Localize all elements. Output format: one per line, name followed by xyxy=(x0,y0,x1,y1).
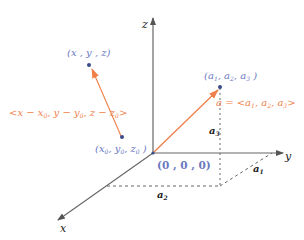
z-axis-label: z xyxy=(141,18,148,31)
a1-projection-line xyxy=(220,153,272,186)
point-general xyxy=(87,63,91,67)
displacement-vector-arrow xyxy=(92,69,121,136)
vector-diagram: z y x (0 , 0 , 0) (x , y , z) (x0, y0, z… xyxy=(0,0,304,240)
origin-point xyxy=(151,151,154,154)
displacement-vector-label: <x − x0, y − y0, z − z0> xyxy=(9,107,127,119)
x-axis-label: x xyxy=(60,222,67,235)
a1-component-label: a1 xyxy=(253,163,264,175)
vector-tip-label: (a1, a2, a3 ) xyxy=(204,70,257,82)
a3-component-label: a3 xyxy=(209,125,220,137)
initial-point-label: (x0, y0, z0 ) xyxy=(95,143,147,155)
a2-component-label: a2 xyxy=(157,189,168,201)
position-vector-label: a = <a1, a2, a3> xyxy=(216,97,296,109)
general-point-label: (x , y , z) xyxy=(67,47,111,58)
origin-label: (0 , 0 , 0) xyxy=(157,159,211,171)
position-vector-arrow xyxy=(154,90,218,152)
point-initial xyxy=(120,135,124,139)
point-vector-tip xyxy=(218,85,222,89)
y-axis-label: y xyxy=(284,150,292,163)
